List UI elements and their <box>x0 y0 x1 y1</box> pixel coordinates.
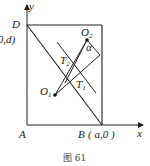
point-o1 <box>53 93 57 97</box>
x-axis-label: x <box>136 127 142 139</box>
label-o2: O2 <box>81 26 93 40</box>
label-alpha: α <box>86 41 92 53</box>
label-b-coord: ( a,0 ) <box>88 128 115 141</box>
label-d: D <box>11 18 20 30</box>
geometry-diagram: y x D (0,d) A B ( a,0 ) O2 O1 T2 T1 α 图 … <box>0 0 150 166</box>
diagonal-db <box>27 25 102 125</box>
figure-caption: 图 61 <box>63 153 86 163</box>
label-a: A <box>18 128 26 140</box>
label-t2: T2 <box>60 54 70 68</box>
label-t1: T1 <box>76 78 86 92</box>
label-d-coord: (0,d) <box>0 33 15 46</box>
y-axis-label: y <box>28 0 34 12</box>
label-o1: O1 <box>40 85 51 99</box>
label-b: B <box>78 128 85 140</box>
